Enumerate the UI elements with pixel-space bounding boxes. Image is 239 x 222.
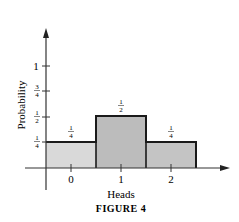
svg-text:4: 4: [35, 142, 39, 150]
svg-text:2: 2: [119, 106, 123, 114]
svg-text:2: 2: [35, 117, 39, 125]
xtick-0: 0: [68, 173, 74, 185]
y-axis-arrow-icon: [43, 28, 49, 38]
svg-text:4: 4: [169, 132, 173, 140]
svg-text:1: 1: [119, 98, 123, 106]
svg-text:4: 4: [35, 91, 39, 99]
ytick-1: 1: [33, 60, 39, 72]
xtick-2: 2: [168, 173, 174, 185]
svg-text:4: 4: [69, 132, 73, 140]
bar-1-heads: [96, 116, 146, 168]
svg-text:3: 3: [35, 83, 39, 91]
svg-text:1: 1: [169, 124, 173, 132]
y-axis-label: Probability: [15, 80, 27, 129]
bar-label-0: 1 4: [68, 124, 74, 140]
xtick-1: 1: [118, 173, 124, 185]
bar-label-2: 1 4: [168, 124, 174, 140]
figure-caption: FIGURE 4: [96, 203, 146, 214]
x-axis-arrow-icon: [220, 165, 230, 171]
histogram-chart: 1 3 4 1 2 1 4 Probability 1 4 1 2 1 4 0 …: [0, 0, 239, 222]
ytick-1-2: 1 2: [34, 109, 40, 125]
svg-text:1: 1: [69, 124, 73, 132]
ytick-1-4: 1 4: [34, 134, 40, 150]
bar-label-1: 1 2: [118, 98, 124, 114]
ytick-3-4: 3 4: [34, 83, 40, 99]
svg-text:1: 1: [35, 109, 39, 117]
svg-text:1: 1: [35, 134, 39, 142]
x-axis-label: Heads: [107, 188, 135, 200]
